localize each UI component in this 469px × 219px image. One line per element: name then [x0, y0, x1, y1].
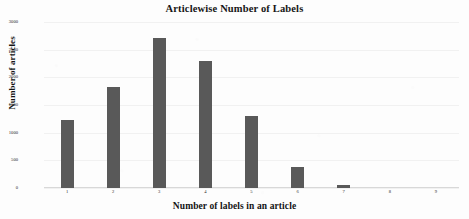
- x-tick-label: 7: [334, 190, 354, 195]
- x-tick-label: 8: [380, 190, 400, 195]
- gridline: [44, 50, 459, 51]
- x-axis-title: Number of labels in an article: [0, 201, 469, 211]
- bar: [291, 167, 304, 188]
- plot-area: [44, 22, 459, 188]
- bar: [245, 116, 258, 188]
- chart-figure: Articlewise Number of Labels Number of a…: [0, 0, 469, 219]
- bar: [61, 120, 74, 188]
- y-tick-label: 1500: [0, 103, 18, 108]
- y-axis-title: Number of articles: [7, 23, 17, 123]
- y-tick-label: 3000: [0, 20, 18, 25]
- x-tick-label: 1: [57, 190, 77, 195]
- gridline: [44, 22, 459, 23]
- chart-title: Articlewise Number of Labels: [0, 3, 469, 14]
- bar: [199, 61, 212, 188]
- x-tick-label: 6: [288, 190, 308, 195]
- y-tick-label: 2000: [0, 75, 18, 80]
- bar: [107, 87, 120, 188]
- y-tick-label: 1000: [0, 131, 18, 136]
- y-tick-label: 500: [0, 158, 18, 163]
- y-tick-label: 2500: [0, 48, 18, 53]
- gridline: [44, 77, 459, 78]
- bar: [337, 185, 350, 188]
- x-tick-label: 4: [195, 190, 215, 195]
- bar: [153, 38, 166, 189]
- x-tick-label: 3: [149, 190, 169, 195]
- x-tick-label: 5: [242, 190, 262, 195]
- x-tick-label: 9: [426, 190, 446, 195]
- y-tick-label: 0: [0, 186, 18, 191]
- x-tick-label: 2: [103, 190, 123, 195]
